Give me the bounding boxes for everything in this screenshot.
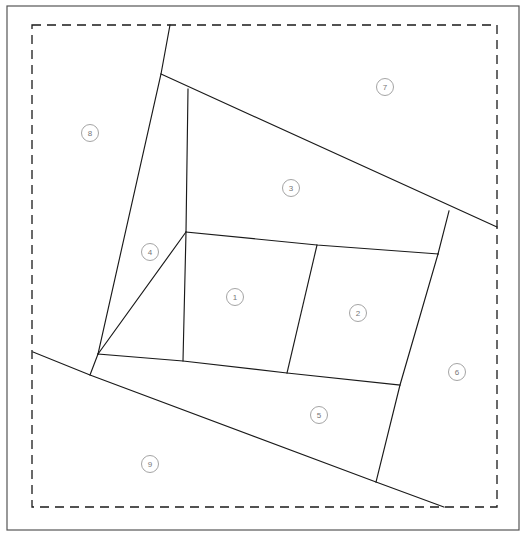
region-label-text-8: 8 bbox=[88, 129, 93, 138]
region-label-text-7: 7 bbox=[383, 83, 388, 92]
region-label-text-9: 9 bbox=[148, 460, 153, 469]
region-label-text-2: 2 bbox=[356, 309, 361, 318]
region-label-text-3: 3 bbox=[289, 184, 294, 193]
region-label-text-5: 5 bbox=[317, 411, 322, 420]
region-label-text-6: 6 bbox=[455, 368, 460, 377]
region-label-6[interactable]: 6 bbox=[449, 364, 466, 381]
region-label-4[interactable]: 4 bbox=[142, 244, 159, 261]
region-label-9[interactable]: 9 bbox=[142, 456, 159, 473]
region-label-7[interactable]: 7 bbox=[377, 79, 394, 96]
parcel-subdivision-svg: 1 2 3 4 5 6 bbox=[0, 0, 528, 543]
canvas-background bbox=[0, 0, 528, 543]
diagram-canvas: 1 2 3 4 5 6 bbox=[0, 0, 528, 543]
region-label-5[interactable]: 5 bbox=[311, 407, 328, 424]
region-label-8[interactable]: 8 bbox=[82, 125, 99, 142]
region-label-2[interactable]: 2 bbox=[350, 305, 367, 322]
region-label-3[interactable]: 3 bbox=[283, 180, 300, 197]
region-label-text-1: 1 bbox=[233, 293, 238, 302]
region-label-text-4: 4 bbox=[148, 248, 153, 257]
region-label-1[interactable]: 1 bbox=[227, 289, 244, 306]
